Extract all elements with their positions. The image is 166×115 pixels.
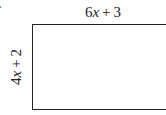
- rectangle-width-label: 6x+3: [78, 3, 128, 21]
- height-variable: x: [8, 71, 24, 78]
- width-constant: 3: [114, 4, 122, 20]
- height-constant: 2: [8, 49, 24, 57]
- rectangle-height-label: 4x+2: [7, 42, 25, 92]
- width-operator: +: [99, 4, 113, 20]
- rectangle-shape: [32, 24, 166, 110]
- height-coefficient: 4: [8, 78, 24, 86]
- height-operator: +: [8, 56, 24, 70]
- problem-number: .: [0, 0, 2, 11]
